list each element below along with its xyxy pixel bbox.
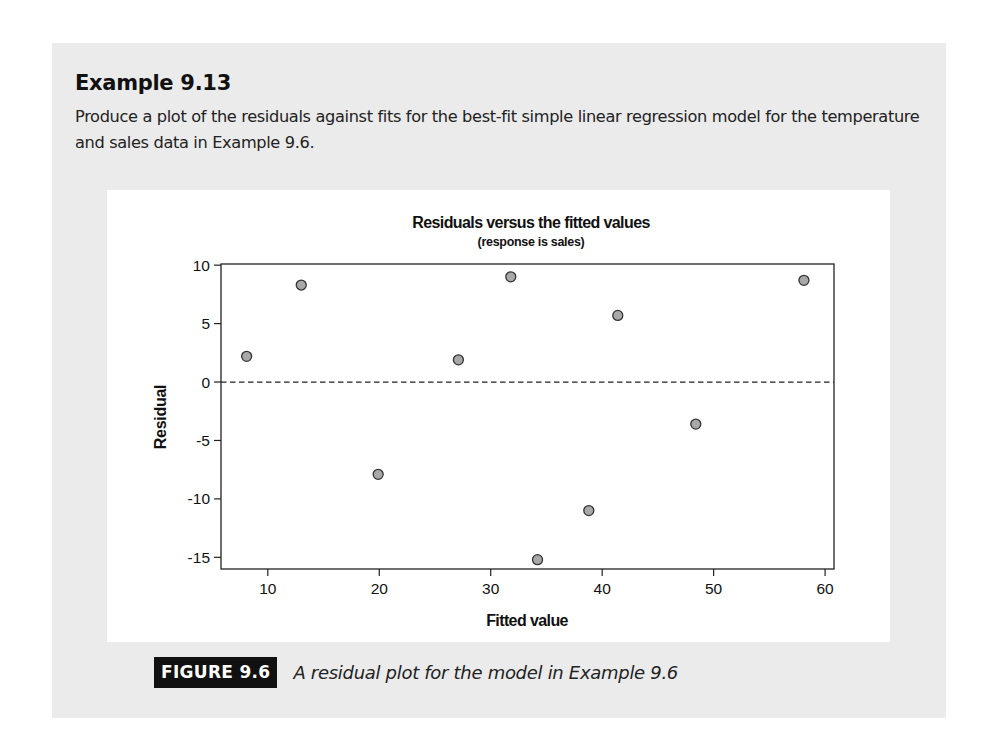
- data-point: [799, 275, 809, 285]
- y-tick-label: 0: [201, 374, 210, 391]
- x-tick-label: 30: [482, 580, 500, 597]
- data-point: [533, 555, 543, 565]
- y-tick-label: -15: [188, 549, 210, 566]
- x-tick-label: 60: [816, 580, 834, 597]
- y-tick-label: 5: [201, 315, 210, 332]
- x-axis-label: Fitted value: [486, 612, 568, 629]
- example-title: Example 9.13: [75, 71, 231, 95]
- figure-label: FIGURE 9.6: [154, 657, 277, 688]
- y-tick-label: -5: [196, 432, 210, 449]
- data-point: [613, 310, 623, 320]
- data-point: [584, 506, 594, 516]
- y-tick-label: 10: [193, 257, 211, 274]
- data-point: [691, 419, 701, 429]
- x-tick-label: 50: [705, 580, 723, 597]
- x-tick-label: 20: [371, 580, 389, 597]
- data-point: [373, 469, 383, 479]
- y-tick-label: -10: [188, 490, 211, 507]
- figure-caption: FIGURE 9.6 A residual plot for the model…: [154, 657, 678, 688]
- x-tick-label: 40: [594, 580, 612, 597]
- y-axis-label: Residual: [152, 385, 169, 449]
- data-point: [453, 355, 463, 365]
- chart-card: Residuals versus the fitted values (resp…: [107, 190, 890, 642]
- data-point: [242, 351, 252, 361]
- residual-scatter-chart: Residuals versus the fitted values (resp…: [107, 190, 890, 642]
- plot-area: 1050-5-10-15102030405060: [188, 257, 834, 597]
- example-body: Produce a plot of the residuals against …: [75, 104, 925, 156]
- chart-subtitle: (response is sales): [478, 235, 585, 249]
- figure-caption-text: A residual plot for the model in Example…: [293, 662, 678, 683]
- example-panel: Example 9.13 Produce a plot of the resid…: [52, 43, 946, 718]
- chart-title: Residuals versus the fitted values: [412, 214, 650, 231]
- plot-frame: [221, 264, 834, 569]
- x-tick-label: 10: [259, 580, 277, 597]
- data-point: [506, 272, 516, 282]
- data-point: [296, 280, 306, 290]
